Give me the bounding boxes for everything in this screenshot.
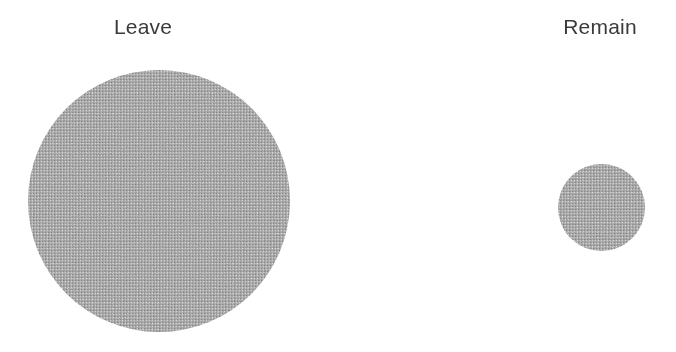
bubble-comparison-figure: Leave xyxy=(0,0,676,352)
bubble-circle-leave xyxy=(28,70,290,332)
bubble-circle-remain xyxy=(558,164,645,251)
grain-texture-icon xyxy=(558,164,645,251)
bubble-label-leave: Leave xyxy=(114,16,172,37)
grain-texture-icon xyxy=(28,70,290,332)
bubble-label-remain: Remain xyxy=(563,16,637,37)
